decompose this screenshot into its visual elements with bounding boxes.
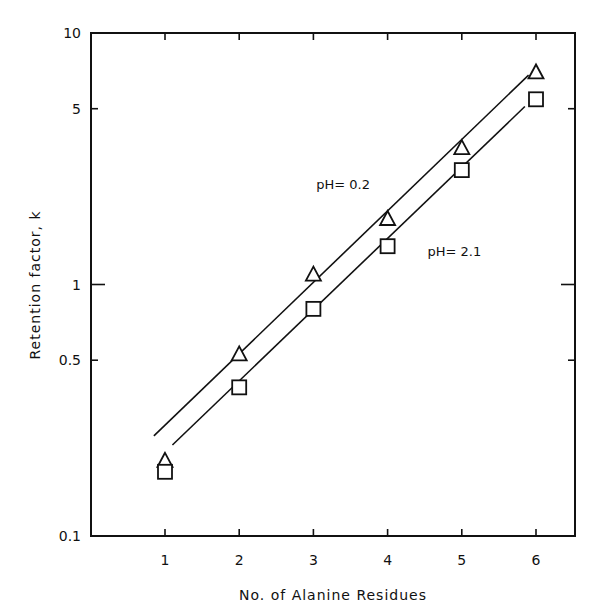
y-tick-label: 1: [72, 277, 81, 293]
y-tick-label: 5: [72, 101, 81, 117]
square-marker: [158, 465, 172, 479]
triangle-marker: [380, 211, 395, 225]
y-tick-labels: 0.10.51510: [59, 25, 81, 544]
y-tick-label: 0.1: [59, 528, 81, 544]
x-tick-labels: 123456: [161, 552, 541, 568]
ph-annotation: pH= 0.2: [316, 177, 370, 192]
x-tick-label: 1: [161, 552, 170, 568]
data-markers: [158, 64, 544, 478]
triangle-marker: [306, 267, 321, 281]
triangle-marker: [529, 64, 544, 78]
x-tick-label: 3: [309, 552, 318, 568]
square-marker: [529, 92, 543, 106]
x-tick-label: 6: [532, 552, 541, 568]
y-tick-label: 0.5: [59, 352, 81, 368]
square-marker: [306, 302, 320, 316]
y-axis-label: Retention factor, k: [27, 211, 43, 360]
x-axis-label: No. of Alanine Residues: [239, 587, 427, 603]
triangle-marker: [454, 140, 469, 154]
x-tick-label: 5: [457, 552, 466, 568]
annotations: pH= 0.2pH= 2.1: [316, 177, 481, 259]
ph-annotation: pH= 2.1: [428, 244, 482, 259]
square-marker: [381, 239, 395, 253]
square-marker: [455, 163, 469, 177]
fit-lines: [154, 75, 529, 445]
square-marker: [232, 380, 246, 394]
y-tick-label: 10: [63, 25, 81, 41]
fit-line: [172, 107, 524, 445]
x-tick-label: 2: [235, 552, 244, 568]
retention-factor-chart: 0.10.51510 123456 pH= 0.2pH= 2.1 No. of …: [0, 0, 600, 614]
x-tick-label: 4: [383, 552, 392, 568]
